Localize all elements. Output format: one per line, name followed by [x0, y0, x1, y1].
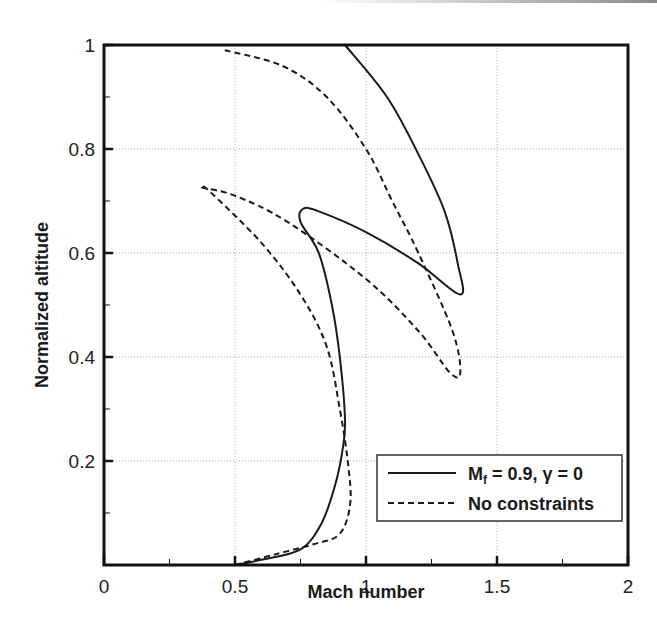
x-axis-title: Mach number	[307, 582, 424, 602]
legend: Mf = 0.9, γ = 0 No constraints	[377, 455, 622, 521]
y-tick-label: 0.2	[69, 451, 95, 472]
y-tick-label: 1	[84, 35, 95, 56]
x-tick-label: 0	[99, 576, 110, 597]
x-tick-label: 2	[623, 576, 634, 597]
y-tick-label: 0.6	[69, 243, 95, 264]
mach-altitude-chart: 00.511.520.20.40.60.81 Mach number Norma…	[0, 0, 657, 622]
legend-label-no-constraints: No constraints	[468, 494, 594, 514]
y-tick-label: 0.4	[69, 347, 96, 368]
y-axis-title: Normalized altitude	[32, 222, 52, 388]
x-tick-label: 1.5	[484, 576, 510, 597]
x-tick-label: 0.5	[222, 576, 248, 597]
y-tick-label: 0.8	[69, 139, 95, 160]
